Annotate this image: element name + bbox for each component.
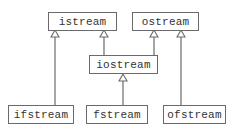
node-fstream: fstream bbox=[86, 105, 148, 124]
node-ofstream: ofstream bbox=[163, 105, 226, 124]
node-label: fstream bbox=[93, 109, 141, 121]
edge-ifstream-istream bbox=[51, 30, 59, 105]
edge-iostream-istream bbox=[100, 30, 108, 55]
node-label: ofstream bbox=[167, 109, 221, 121]
edge-ofstream-ostream bbox=[177, 30, 185, 105]
node-label: ifstream bbox=[14, 109, 68, 121]
hollow-arrowhead-icon bbox=[119, 74, 127, 81]
hollow-arrowhead-icon bbox=[100, 30, 108, 37]
edge-iostream-ostream bbox=[150, 30, 158, 55]
node-label: iostream bbox=[96, 59, 150, 71]
node-istream: istream bbox=[48, 12, 117, 31]
hollow-arrowhead-icon bbox=[150, 30, 158, 37]
edge-fstream-iostream bbox=[119, 74, 127, 105]
node-ifstream: ifstream bbox=[8, 105, 74, 124]
node-ostream: ostream bbox=[132, 12, 199, 31]
node-label: istream bbox=[59, 16, 107, 28]
inheritance-diagram: istream ostream iostream ifstream fstrea… bbox=[0, 0, 235, 132]
hollow-arrowhead-icon bbox=[177, 30, 185, 37]
node-label: ostream bbox=[142, 16, 190, 28]
hollow-arrowhead-icon bbox=[51, 30, 59, 37]
node-iostream: iostream bbox=[89, 55, 158, 74]
